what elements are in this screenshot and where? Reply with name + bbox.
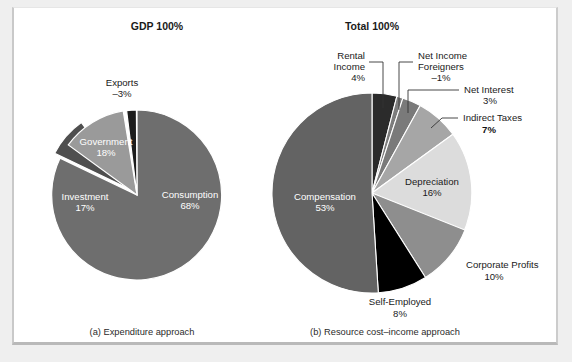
right-label-foreign-name2: Foreigners	[418, 61, 464, 72]
left-label-investment-name: Investment	[62, 191, 109, 202]
right-label-foreign-name1: Net Income	[418, 50, 467, 61]
right-chart-title: Total 100%	[345, 20, 400, 32]
right-chart-caption: (b) Resource cost–income approach	[310, 327, 460, 337]
right-label-corporate-profits-value: 10%	[484, 271, 504, 282]
right-pie-chart: Total 100% Rental	[272, 20, 539, 337]
right-label-foreign-value: –1%	[431, 72, 451, 83]
right-label-self-employed-value: 8%	[393, 308, 407, 319]
right-label-compensation-name: Compensation	[294, 191, 356, 202]
right-label-self-employed-name: Self-Employed	[369, 296, 431, 307]
right-label-net-interest-value: 3%	[483, 95, 497, 106]
left-pie-chart: GDP 100% Exports –3% Government 18% Inve…	[52, 20, 222, 337]
right-label-net-interest-name: Net Interest	[464, 84, 514, 95]
left-label-government-name: Government	[80, 136, 133, 147]
left-label-exports-value: –3%	[112, 88, 132, 99]
left-label-exports-name: Exports	[106, 77, 139, 88]
pie-charts-figure: GDP 100% Exports –3% Government 18% Inve…	[0, 0, 572, 362]
left-chart-title: GDP 100%	[131, 20, 184, 32]
right-label-rental-name1: Rental	[337, 50, 365, 61]
right-label-compensation-value: 53%	[315, 202, 335, 213]
left-label-investment-value: 17%	[75, 202, 95, 213]
figure-frame: GDP 100% Exports –3% Government 18% Inve…	[0, 0, 572, 362]
left-label-consumption-value: 68%	[180, 200, 200, 211]
right-label-depreciation-value: 16%	[422, 187, 442, 198]
left-label-consumption-name: Consumption	[162, 189, 219, 200]
right-label-rental-value: 4%	[351, 72, 365, 83]
right-label-rental-name2: Income	[334, 61, 365, 72]
left-chart-caption: (a) Expenditure approach	[90, 327, 195, 337]
left-label-government-value: 18%	[96, 147, 116, 158]
right-label-indirect-taxes-name: Indirect Taxes	[463, 112, 522, 123]
right-label-indirect-taxes-value: 7%	[482, 124, 496, 135]
right-label-corporate-profits-name: Corporate Profits	[466, 259, 539, 270]
right-label-depreciation-name: Depreciation	[405, 176, 459, 187]
